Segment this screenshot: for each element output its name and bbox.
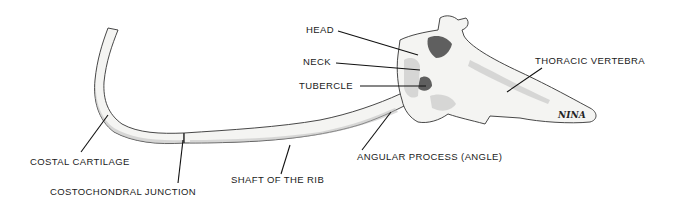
label-costochondral-junction: COSTOCHONDRAL JUNCTION (50, 187, 196, 197)
label-angular-process: ANGULAR PROCESS (ANGLE) (357, 152, 502, 162)
label-costal-cartilage: COSTAL CARTILAGE (30, 157, 130, 167)
costal-cartilage-shape (95, 28, 184, 144)
label-head: HEAD (306, 25, 334, 35)
label-neck: NECK (303, 57, 331, 67)
rib-shaft-shape (184, 90, 416, 143)
shaft-leader-line (281, 145, 290, 174)
label-shaft-of-rib: SHAFT OF THE RIB (231, 175, 324, 185)
artist-signature: NINA (558, 110, 586, 120)
rib-anatomy-diagram: HEAD NECK TUBERCLE THORACIC VERTEBRA ANG… (0, 0, 680, 209)
label-thoracic-vertebra: THORACIC VERTEBRA (535, 56, 645, 66)
thoracic-vertebra-shape (397, 16, 596, 124)
costal-cartilage-leader-line (81, 115, 108, 152)
costochondral-junction-leader-line (178, 140, 183, 183)
label-tubercle: TUBERCLE (299, 81, 353, 91)
